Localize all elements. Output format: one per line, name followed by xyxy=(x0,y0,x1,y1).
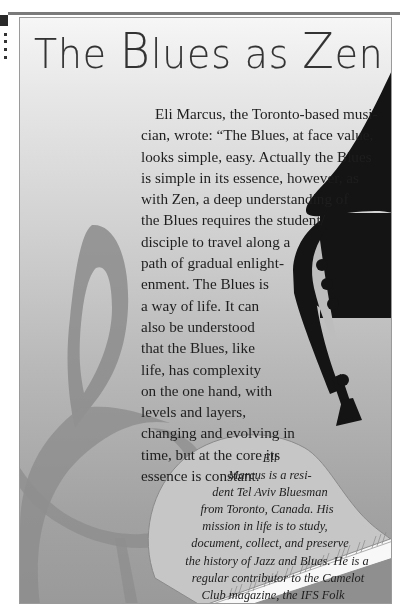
bio-line: document, collect, and preserve xyxy=(170,535,370,552)
body-line: levels and layers, xyxy=(141,401,391,422)
bio-line: mission in life is to study, xyxy=(160,518,370,535)
body-line: disciple to travel along a xyxy=(141,231,391,252)
title-part: en xyxy=(335,30,384,78)
title-part: lues as xyxy=(151,30,302,78)
bio-line: Club magazine, the IFS Folk xyxy=(176,587,370,604)
side-mark xyxy=(4,56,7,59)
bio-line: dent Tel Aviv Bluesman xyxy=(170,484,370,501)
bio-line: regular contributor to the Camelot xyxy=(186,570,370,587)
article-body: Eli Marcus, the Toronto-based musi- cian… xyxy=(141,103,391,486)
bio-line: the history of Jazz and Blues. He is a xyxy=(184,553,370,570)
title-part: Z xyxy=(302,22,334,80)
body-line: with Zen, a deep understanding of xyxy=(141,188,391,209)
body-line: also be understood xyxy=(141,316,391,337)
side-mark xyxy=(4,40,7,43)
title-part: B xyxy=(120,22,151,80)
side-mark xyxy=(4,33,7,36)
body-line: life, has complexity xyxy=(141,359,391,380)
side-mark xyxy=(4,48,7,51)
body-line: is simple in its essence, however, as xyxy=(141,167,391,188)
top-rule xyxy=(8,12,400,15)
body-line: changing and evolving in xyxy=(141,422,391,443)
body-line: enment. The Blues is xyxy=(141,273,391,294)
side-tab-marker xyxy=(0,15,8,26)
body-line: the Blues requires the student/ xyxy=(141,209,391,230)
article-title: The Blues as Zen xyxy=(34,22,384,80)
body-line: on the one hand, with xyxy=(141,380,391,401)
body-line: Eli Marcus, the Toronto-based musi- xyxy=(141,103,391,124)
author-bio: Eli Marcus is a resi- dent Tel Aviv Blue… xyxy=(170,450,370,604)
body-line: that the Blues, like xyxy=(141,337,391,358)
bio-line: from Toronto, Canada. His xyxy=(164,501,370,518)
body-line: path of gradual enlight- xyxy=(141,252,391,273)
article-panel: The Blues as Zen Eli Marcus, the Toronto… xyxy=(19,17,392,604)
body-line: cian, wrote: “The Blues, at face value, xyxy=(141,124,391,145)
body-line: a way of life. It can xyxy=(141,295,391,316)
body-line: looks simple, easy. Actually the Blues xyxy=(141,146,391,167)
bio-line: Eli xyxy=(170,450,370,467)
title-part: The xyxy=(34,30,120,78)
bio-line: Marcus is a resi- xyxy=(170,467,370,484)
